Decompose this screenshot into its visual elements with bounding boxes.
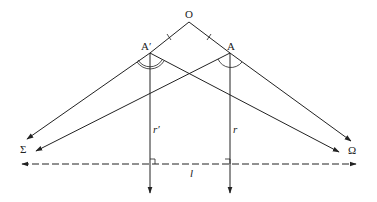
label-l: l [190, 167, 193, 179]
ray-a-to-omega [230, 53, 351, 141]
segment-o-a [189, 22, 230, 53]
tick-mark-right [207, 34, 211, 40]
ray-a-to-sigma [36, 53, 230, 151]
ray-a-prime-to-sigma [27, 53, 150, 139]
label-a-prime: A′ [141, 40, 151, 52]
label-omega: Ω [348, 144, 356, 156]
label-sigma: Σ [20, 143, 26, 155]
right-angle-marker-r-prime [150, 159, 155, 164]
ray-a-prime-to-omega [150, 53, 339, 152]
label-r-prime: r′ [153, 123, 160, 135]
ray-diagram: O A′ A Σ Ω r′ r l [0, 0, 377, 202]
right-angle-marker-r [225, 159, 230, 164]
label-r: r [233, 123, 238, 135]
label-a: A [227, 40, 235, 52]
label-o: O [185, 8, 193, 20]
